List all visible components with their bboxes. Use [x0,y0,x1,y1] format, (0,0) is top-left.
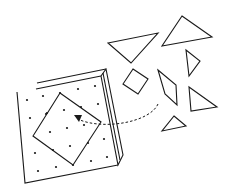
large-triangle-2 [162,16,212,46]
loose-pieces [108,16,217,131]
board-right-inner [103,73,120,160]
board-top-edge-back [37,69,106,83]
small-triangle-2 [162,116,186,131]
geoboard [17,69,123,183]
board-top-edge-front [36,76,101,89]
arrow-head-icon [74,115,82,122]
square-piece [123,69,148,94]
large-triangle-1 [108,33,158,63]
medium-triangle [189,87,217,111]
diagram-canvas [0,0,232,195]
parallelogram-piece [158,70,177,105]
small-triangle-1 [186,50,200,76]
board-front-face [17,92,118,183]
arrow-path [80,104,158,124]
geoboard-tangram-diagram [0,0,232,195]
